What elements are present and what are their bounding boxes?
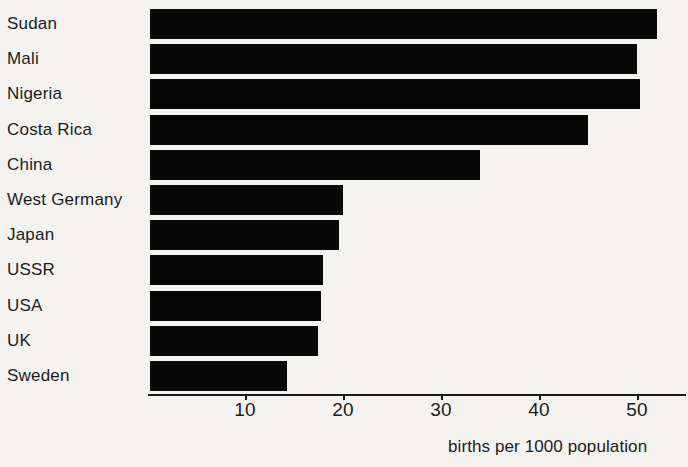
x-axis-line: [148, 394, 686, 396]
category-label: Mali: [7, 41, 39, 76]
bar-row: UK: [0, 323, 688, 358]
category-label: USA: [7, 288, 43, 323]
category-label: Japan: [7, 217, 54, 252]
bar: [150, 291, 321, 321]
bar: [150, 9, 657, 39]
bar-row: China: [0, 147, 688, 182]
bar-row: Sudan: [0, 6, 688, 41]
bar: [150, 79, 640, 109]
bar-row: Mali: [0, 41, 688, 76]
category-label: USSR: [7, 252, 55, 287]
bar: [150, 115, 588, 145]
category-label: Nigeria: [7, 76, 62, 111]
bar-row: West Germany: [0, 182, 688, 217]
bar: [150, 255, 323, 285]
bar: [150, 44, 637, 74]
bar-row: USA: [0, 288, 688, 323]
category-label: China: [7, 147, 52, 182]
bar-row: Costa Rica: [0, 112, 688, 147]
bar: [150, 326, 318, 356]
category-label: UK: [7, 323, 31, 358]
category-label: Costa Rica: [7, 112, 92, 147]
bar: [150, 150, 480, 180]
category-label: West Germany: [7, 182, 122, 217]
bar-row: Nigeria: [0, 76, 688, 111]
x-tick-label: 40: [528, 399, 550, 421]
x-tick-label: 50: [626, 399, 648, 421]
x-axis-title: births per 1000 population: [448, 437, 647, 457]
x-tick-label: 30: [430, 399, 452, 421]
x-tick-label: 10: [234, 399, 256, 421]
bar: [150, 185, 343, 215]
bar-row: Japan: [0, 217, 688, 252]
bar-row: Sweden: [0, 358, 688, 393]
x-tick-label: 20: [332, 399, 354, 421]
bar-row: USSR: [0, 252, 688, 287]
bar: [150, 220, 339, 250]
bar-chart: SudanMaliNigeriaCosta RicaChinaWest Germ…: [0, 0, 688, 467]
category-label: Sudan: [7, 6, 57, 41]
bar: [150, 361, 287, 391]
category-label: Sweden: [7, 358, 70, 393]
